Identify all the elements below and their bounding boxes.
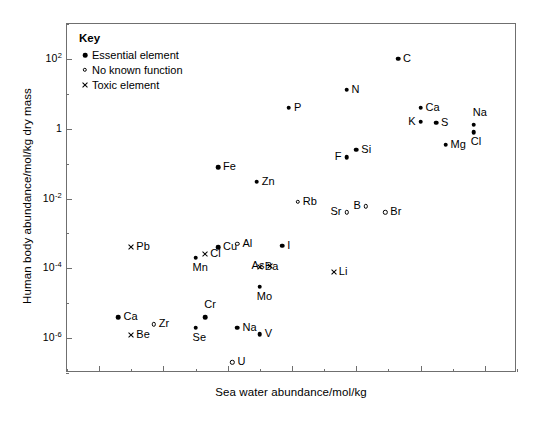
legend-marker [79,63,92,76]
y-tick-label: 1 [28,122,62,134]
filled-circle-marker [287,105,292,110]
data-point-label: Zn [262,175,275,187]
data-point-label: Cl [210,247,221,259]
data-point-label: C [403,52,411,64]
x-tick [67,369,68,372]
open-circle-marker [230,360,234,364]
cross-marker [330,268,337,275]
filled-circle-marker [216,165,221,170]
y-tick [66,268,72,269]
filled-circle-marker [258,284,263,289]
data-point-label: B [354,199,361,211]
data-point-label: K [408,115,415,127]
y-tick [66,59,72,60]
x-tick [356,366,357,372]
data-point-label: I [287,239,290,251]
x-tick [99,366,100,372]
filled-circle-marker [434,120,439,125]
y-tick-label: 10-2 [28,192,62,204]
legend-title: Key [79,32,183,44]
filled-circle-marker [443,142,448,147]
filled-circle-marker [344,88,349,93]
filled-circle-marker [258,332,263,337]
y-tick [66,373,69,374]
data-point-label: Ca [426,101,440,113]
data-point-label: U [237,355,245,367]
data-point-label: Mn [193,261,208,273]
data-point-label: Al [242,237,252,249]
open-circle-marker [344,210,348,214]
legend-marker [79,78,92,91]
y-tick-label: 102 [28,52,62,64]
y-tick [66,24,69,25]
legend-entry: Essential element [79,47,183,62]
x-tick [485,366,486,372]
filled-circle-marker [418,105,423,110]
x-tick [260,369,261,372]
filled-circle-marker [235,325,240,330]
filled-circle-marker [203,315,208,320]
data-point-label: Pb [136,240,150,252]
filled-circle-marker [280,243,285,248]
data-point-label: Br [390,205,401,217]
filled-circle-marker [354,147,359,152]
filled-circle-marker [83,53,88,58]
data-point-label: Zr [159,317,170,329]
legend-entries: Essential elementNo known functionToxic … [79,47,183,92]
x-tick [196,369,197,372]
x-tick [131,369,132,372]
cross-marker [202,251,209,258]
cross-marker [82,82,89,89]
data-point-label: Fe [223,160,236,172]
open-circle-marker [383,210,387,214]
data-point-label: Cl [471,135,482,147]
data-point-label: Na [242,321,256,333]
filled-circle-marker [254,180,259,185]
legend-marker [79,48,92,61]
data-point-label: Li [339,265,348,277]
filled-circle-marker [471,130,476,135]
open-circle-marker [295,200,299,204]
x-axis-title: Sea water abundance/mol/kg [66,386,516,398]
filled-circle-marker [471,122,476,127]
filled-circle-marker [193,325,198,330]
data-point-label: Sr [330,205,341,217]
data-point-label: Cr [204,298,216,310]
legend-entry: Toxic element [79,77,183,92]
legend-label: No known function [92,64,183,76]
data-point-label: Mo [257,290,272,302]
x-tick [421,366,422,372]
cross-marker [128,332,135,339]
legend-entry: No known function [79,62,183,77]
x-tick [517,369,518,372]
data-point-label: Se [193,331,207,343]
x-tick [324,369,325,372]
data-point-label: Si [361,143,371,155]
legend-label: Essential element [92,49,179,61]
y-tick [66,338,72,339]
cross-marker [128,244,135,251]
x-tick [292,366,293,372]
y-tick [66,94,69,95]
filled-circle-marker [116,315,121,320]
filled-circle-marker [344,155,349,160]
legend: Key Essential elementNo known functionTo… [79,32,183,92]
data-point-label: V [265,327,272,339]
data-point-label: Rb [303,195,317,207]
open-circle-marker [235,242,239,246]
filled-circle-marker [418,119,423,124]
scatter-plot-figure: Human body abundance/mol/kg dry mass Sea… [0,0,546,429]
y-tick [66,129,72,130]
data-point-label: Be [136,328,150,340]
y-tick [66,164,69,165]
open-circle-marker [83,68,87,72]
open-circle-marker [364,204,368,208]
data-point-label: P [294,101,301,113]
x-tick [228,366,229,372]
data-point-label: F [335,150,342,162]
y-tick-label: 10-6 [28,331,62,343]
cross-marker [256,263,263,270]
plot-area: CNPCaKSNaClMgSiFFeZnCuIMnMoCaCrSeNaVRbBS… [66,23,516,372]
data-point-label: Na [473,106,487,118]
filled-circle-marker [396,57,401,62]
